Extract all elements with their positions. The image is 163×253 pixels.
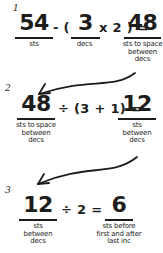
- term-value: 48: [124, 12, 162, 39]
- term-label-line: decs: [122, 56, 163, 64]
- term-value: 54: [15, 12, 53, 39]
- step-1-minus-open-paren: - (: [53, 21, 70, 34]
- step-1-subtrahend-term: 3 decs: [71, 12, 98, 49]
- term-value: 12: [118, 93, 156, 120]
- term-value: 3: [71, 12, 100, 39]
- curved-arrow-down-left-icon: [30, 150, 145, 192]
- term-label-line: last inc: [93, 238, 145, 246]
- term-label-line: decs: [117, 137, 157, 145]
- term-value: 6: [105, 194, 134, 221]
- step-3-result-term: 6 sts before first and after last inc: [93, 194, 145, 246]
- step-2-number: 2: [5, 84, 11, 93]
- term-label: sts before first and after last inc: [93, 223, 145, 246]
- term-label-line: decs: [71, 41, 98, 49]
- step-3-number: 3: [5, 186, 11, 195]
- term-label-line: decs: [14, 137, 58, 145]
- term-label: sts to space between decs: [14, 122, 58, 145]
- term-label: sts: [15, 41, 53, 49]
- step-1-result-term: 48 sts to space between decs: [122, 12, 163, 64]
- term-label: sts to space between decs: [122, 41, 163, 64]
- term-label: sts between decs: [117, 122, 157, 145]
- step-2-result-term: 12 sts between decs: [117, 93, 157, 145]
- step-2-dividend-term: 48 sts to space between decs: [14, 93, 58, 145]
- term-value: 12: [19, 194, 57, 221]
- decrease-math-diagram: 1 54 sts - ( 3 decs x 2 ) = 48 sts to sp…: [0, 0, 163, 253]
- term-label: sts between decs: [18, 223, 58, 246]
- term-label-line: decs: [18, 238, 58, 246]
- term-value: 48: [17, 93, 55, 120]
- term-label: decs: [71, 41, 98, 49]
- term-label-line: sts: [15, 41, 53, 49]
- step-1-minuend-term: 54 sts: [15, 12, 53, 49]
- step-3-dividend-term: 12 sts between decs: [18, 194, 58, 246]
